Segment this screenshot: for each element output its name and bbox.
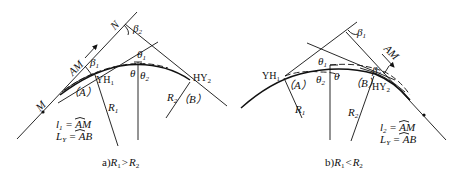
label-theta-b: θ xyxy=(334,70,340,82)
label-m: M xyxy=(32,98,48,114)
label-hy2: HY2 xyxy=(193,72,211,85)
label-r1: R1 xyxy=(107,101,118,115)
label-beta1-b: β1 xyxy=(356,26,366,40)
label-yh1: YH1 xyxy=(96,74,114,87)
label-r2-b: R2 xyxy=(347,106,359,120)
label-beta2: β2 xyxy=(132,22,142,36)
label-beta1: β1 xyxy=(89,56,99,70)
label-r2: R2 xyxy=(166,91,178,105)
label-beta2-b: β2 xyxy=(371,64,381,78)
label-am-b: AM xyxy=(381,41,402,62)
label-a: （A） xyxy=(68,86,97,98)
label-b: （B） xyxy=(178,93,207,105)
label-theta2: θ2 xyxy=(140,69,149,83)
label-r1-b: R1 xyxy=(294,103,305,117)
caption-b: b)R1<R2 xyxy=(325,156,363,170)
caption-a: a)R1>R2 xyxy=(102,156,140,170)
label-theta2-b: θ2 xyxy=(316,73,325,87)
formula-ly: LY = AB xyxy=(55,130,92,144)
label-hy2-b: HY2 xyxy=(372,81,390,94)
label-theta1-b: θ1 xyxy=(318,55,327,69)
panel-a: N β2 AM β1 YH1 （A） M R1 θ1 θ θ2 HY2 R2 （… xyxy=(17,12,227,170)
label-a-b: （A） xyxy=(283,79,312,91)
label-am: AM xyxy=(65,57,86,78)
formula-ly-b: LY = AB xyxy=(379,133,416,147)
label-theta: θ xyxy=(130,67,136,79)
compound-curve-diagram: N β2 AM β1 YH1 （A） M R1 θ1 θ θ2 HY2 R2 （… xyxy=(0,0,464,184)
panel-b: β1 AM β2 θ1 θ θ2 YH1 （A） （B） HY2 R1 R2 l… xyxy=(241,22,446,170)
label-yh1-b: YH1 xyxy=(262,70,280,83)
point-m-b xyxy=(422,113,425,116)
